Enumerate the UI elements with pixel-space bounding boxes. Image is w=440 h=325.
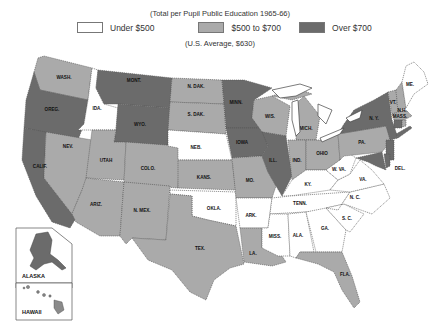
state-ndak: [170, 78, 224, 104]
label-colo: COLO.: [141, 166, 156, 171]
label-wva: W. VA.: [332, 167, 346, 172]
label-utah: UTAH: [100, 158, 113, 163]
label-fla: FLA.: [340, 272, 350, 277]
state-colo: [124, 142, 180, 188]
state-sdak: [168, 102, 226, 134]
label-calif: CALIF.: [33, 164, 47, 169]
inset-box: ALASKA HAWAII: [16, 228, 72, 320]
label-alaska: ALASKA: [22, 273, 45, 279]
label-ill: ILL.: [269, 158, 277, 163]
state-conn: [394, 120, 402, 128]
label-ga: GA.: [321, 226, 329, 231]
state-fla: [296, 252, 360, 308]
state-nmex: [120, 182, 170, 244]
state-mich: [296, 96, 320, 140]
label-vt: VT.: [390, 100, 397, 105]
label-pa: PA.: [358, 140, 365, 145]
label-ala: ALA.: [293, 233, 304, 238]
label-neb: NEB.: [191, 145, 202, 150]
label-ny: N. Y.: [369, 116, 379, 121]
label-wash: WASH.: [56, 75, 71, 80]
label-ky: KY.: [304, 182, 311, 187]
label-mont: MONT.: [127, 78, 141, 83]
label-minn: MINN.: [229, 100, 242, 105]
label-mich: MICH.: [299, 126, 312, 131]
label-nmex: N. MEX.: [133, 208, 150, 213]
label-miss: MISS.: [269, 234, 282, 239]
label-sc: S. C.: [342, 216, 352, 221]
label-ida: IDA.: [92, 106, 101, 111]
states-layer: [22, 56, 428, 308]
label-okla: OKLA.: [207, 206, 221, 211]
state-mont: [96, 70, 172, 108]
label-hawaii: HAWAII: [22, 309, 42, 315]
label-nh: N.H.: [397, 108, 406, 113]
label-me: ME.: [406, 82, 414, 87]
state-ri: [402, 120, 406, 127]
label-la: LA.: [249, 251, 256, 256]
label-ohio: OHIO: [316, 151, 328, 156]
label-va: VA.: [359, 177, 366, 182]
label-nc: N. C.: [350, 195, 360, 200]
label-ariz: ARIZ.: [90, 202, 102, 207]
label-iowa: IOWA: [236, 140, 249, 145]
label-mo: MO.: [246, 178, 255, 183]
us-map: WASH. OREG. CALIF. IDA. NEV. MONT. WYO. …: [0, 0, 440, 325]
label-mass: MASS.: [393, 114, 408, 119]
label-ndak: N. DAK.: [187, 84, 204, 89]
label-oreg: OREG.: [45, 107, 60, 112]
label-sdak: S. DAK.: [188, 112, 205, 117]
label-tex: TEX.: [195, 246, 205, 251]
label-ark: ARK.: [245, 213, 256, 218]
label-ind: IND.: [292, 158, 301, 163]
label-wis: WIS.: [265, 114, 275, 119]
label-wyo: WYO.: [134, 122, 146, 127]
label-del: DEL.: [395, 166, 405, 171]
label-kans: KANS.: [197, 175, 211, 180]
label-nev: NEV.: [63, 144, 73, 149]
label-tenn: TENN.: [293, 201, 307, 206]
